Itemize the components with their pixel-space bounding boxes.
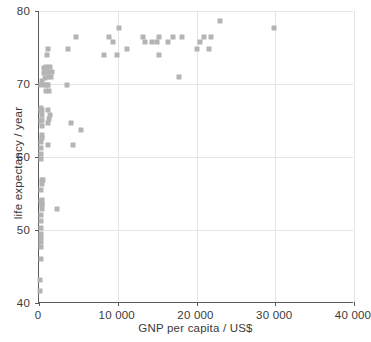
data-point xyxy=(39,140,44,145)
data-point xyxy=(38,288,43,293)
tick-mark-x xyxy=(39,302,40,306)
y-axis-title: life expectancy / year xyxy=(12,88,24,238)
data-point xyxy=(207,46,212,51)
tick-mark-x xyxy=(118,302,119,306)
x-tick-label: 40 000 xyxy=(335,309,371,321)
data-point xyxy=(66,46,71,51)
data-point xyxy=(218,19,223,24)
data-point xyxy=(177,75,182,80)
data-point xyxy=(156,34,161,39)
data-point xyxy=(40,177,45,182)
tick-mark-x xyxy=(197,302,198,306)
data-point xyxy=(46,46,51,51)
data-point xyxy=(46,82,51,87)
data-point xyxy=(38,277,43,282)
x-tick-label: 10 000 xyxy=(99,309,135,321)
y-tick-label: 80 xyxy=(0,5,30,17)
data-point xyxy=(166,40,171,45)
data-point xyxy=(44,52,49,57)
data-point xyxy=(157,52,162,57)
data-point xyxy=(48,75,53,80)
data-point xyxy=(40,133,45,138)
data-point xyxy=(68,120,73,125)
data-point xyxy=(39,187,44,192)
x-tick-label: 30 000 xyxy=(256,309,292,321)
data-point xyxy=(114,52,119,57)
data-point xyxy=(39,182,44,187)
data-point xyxy=(40,113,45,118)
data-point xyxy=(48,112,53,117)
data-point xyxy=(45,108,50,113)
data-point xyxy=(155,40,160,45)
data-point xyxy=(39,232,44,237)
data-point xyxy=(39,117,44,122)
data-point xyxy=(140,34,145,39)
tick-mark-x xyxy=(275,302,276,306)
data-point xyxy=(39,212,44,217)
data-point xyxy=(107,34,112,39)
data-point xyxy=(111,40,116,45)
data-point xyxy=(209,34,214,39)
gridline-horizontal xyxy=(39,11,353,12)
data-point xyxy=(74,34,79,39)
data-point xyxy=(170,34,175,39)
data-point xyxy=(38,257,43,262)
gridline-horizontal xyxy=(39,84,353,85)
plot-area xyxy=(38,11,353,303)
data-point xyxy=(48,65,53,70)
data-point xyxy=(38,240,43,245)
x-tick-label: 0 xyxy=(35,309,42,321)
data-point xyxy=(47,117,52,122)
data-point xyxy=(143,40,148,45)
y-tick-label: 40 xyxy=(0,297,30,309)
data-point xyxy=(39,198,44,203)
data-point xyxy=(271,25,276,30)
data-point xyxy=(39,146,44,151)
x-tick-label: 20 000 xyxy=(177,309,213,321)
data-point xyxy=(55,206,60,211)
data-point xyxy=(179,34,184,39)
data-point xyxy=(38,219,43,224)
data-point xyxy=(38,152,43,157)
data-point xyxy=(38,157,43,162)
data-point xyxy=(195,46,200,51)
x-axis-title: GNP per capita / US$ xyxy=(38,322,353,334)
gridline-horizontal xyxy=(39,230,353,231)
data-point xyxy=(202,34,207,39)
data-point xyxy=(116,25,121,30)
data-point xyxy=(39,106,44,111)
data-point xyxy=(45,121,50,126)
data-point xyxy=(149,40,154,45)
data-point xyxy=(47,88,52,93)
data-point xyxy=(78,127,83,132)
data-point xyxy=(46,143,51,148)
data-point xyxy=(49,70,54,75)
data-point xyxy=(39,225,44,230)
tick-mark-y xyxy=(35,303,39,304)
data-point xyxy=(70,143,75,148)
data-point xyxy=(64,83,69,88)
data-point xyxy=(197,40,202,45)
gridline-horizontal xyxy=(39,157,353,158)
gridline-vertical xyxy=(354,11,355,302)
data-point xyxy=(39,123,44,128)
data-point xyxy=(125,46,130,51)
tick-mark-y xyxy=(35,11,39,12)
data-point xyxy=(102,52,107,57)
tick-mark-x xyxy=(354,302,355,306)
data-point xyxy=(38,244,43,249)
